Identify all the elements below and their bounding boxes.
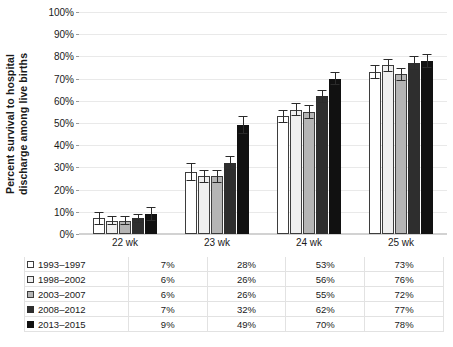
y-axis-tick-mark [76, 101, 79, 102]
bar[interactable] [106, 221, 118, 234]
error-bar-cap-top [423, 54, 432, 55]
table-value-cell: 55% [286, 287, 365, 302]
legend-entry[interactable]: 2008–2012 [25, 302, 129, 317]
table-value-cell: 62% [286, 302, 365, 317]
legend-swatch-icon [27, 291, 34, 298]
error-bar-cap-top [95, 212, 104, 213]
error-bar-cap-top [213, 170, 222, 171]
legend-swatch-icon [27, 261, 34, 268]
bar-group: 22 wk [93, 12, 157, 234]
y-axis-title: Percent survival to hospital discharge a… [0, 0, 34, 248]
y-axis-tick-mark [76, 12, 79, 13]
bar[interactable] [329, 79, 341, 234]
table-value-cell: 70% [286, 317, 365, 332]
x-axis-category-label: 24 wk [277, 237, 341, 248]
table-row: 2013–20159%49%70%78% [25, 317, 444, 332]
y-axis-tick-label: 80% [32, 51, 74, 62]
bar[interactable] [408, 63, 420, 234]
legend-entry[interactable]: 1993–1997 [25, 257, 129, 272]
bar-slot [316, 12, 328, 234]
table-value-cell: 6% [128, 272, 207, 287]
bar[interactable] [421, 61, 433, 234]
y-axis-tick-label: 20% [32, 184, 74, 195]
x-axis-category-label: 22 wk [93, 237, 157, 248]
table-value-cell: 73% [365, 257, 444, 272]
table-row: 2003–20076%26%55%72% [25, 287, 444, 302]
legend-swatch-icon [27, 321, 34, 328]
legend-entry[interactable]: 1998–2002 [25, 272, 129, 287]
y-axis-tick-mark [76, 212, 79, 213]
table-value-cell: 26% [207, 272, 286, 287]
bar[interactable] [185, 172, 197, 234]
error-bar-cap-top [108, 216, 117, 217]
y-axis-tick-label: 100% [32, 7, 74, 18]
y-axis-tick-label: 50% [32, 118, 74, 129]
table-value-cell: 72% [365, 287, 444, 302]
table-value-cell: 28% [207, 257, 286, 272]
bar-slot [329, 12, 341, 234]
gridline [79, 234, 447, 235]
error-bar-cap-top [371, 65, 380, 66]
error-bar-cap-top [226, 156, 235, 157]
table-value-cell: 78% [365, 317, 444, 332]
bar[interactable] [145, 214, 157, 234]
bar[interactable] [198, 176, 210, 234]
table-value-cell: 7% [128, 257, 207, 272]
y-axis-tick-label: 40% [32, 140, 74, 151]
error-bar-cap-top [134, 214, 143, 215]
bar[interactable] [211, 176, 223, 234]
y-axis-tick-mark [76, 145, 79, 146]
bar-slot [277, 12, 289, 234]
bar[interactable] [132, 218, 144, 234]
legend-entry[interactable]: 2013–2015 [25, 317, 129, 332]
error-bar-cap-top [397, 68, 406, 69]
bar[interactable] [277, 116, 289, 234]
bar[interactable] [316, 96, 328, 234]
legend-swatch-icon [27, 306, 34, 313]
bar-slot [382, 12, 394, 234]
y-axis-tick-label: 90% [32, 29, 74, 40]
y-axis-tick-label: 60% [32, 95, 74, 106]
table-row: 2008–20127%32%62%77% [25, 302, 444, 317]
bar-slot [211, 12, 223, 234]
bar-slot [93, 12, 105, 234]
bar-slot [119, 12, 131, 234]
legend-series-label: 1998–2002 [38, 274, 86, 285]
y-axis-tick-mark [76, 190, 79, 191]
bar-slot [395, 12, 407, 234]
bar[interactable] [93, 218, 105, 234]
bar[interactable] [119, 221, 131, 234]
error-bar-cap-top [147, 207, 156, 208]
bar[interactable] [303, 112, 315, 234]
table-value-cell: 76% [365, 272, 444, 287]
y-axis-tick-mark [76, 123, 79, 124]
bar[interactable] [237, 125, 249, 234]
bar[interactable] [224, 163, 236, 234]
bar-slot [106, 12, 118, 234]
bar-group: 24 wk [277, 12, 341, 234]
table-row: 1993–19977%28%53%73% [25, 257, 444, 272]
bar-slot [224, 12, 236, 234]
bar-slot [421, 12, 433, 234]
legend-series-label: 2013–2015 [38, 319, 86, 330]
bar-slot [369, 12, 381, 234]
error-bar-cap-top [384, 59, 393, 60]
x-axis-category-label: 25 wk [369, 237, 433, 248]
legend-series-label: 2003–2007 [38, 289, 86, 300]
error-bar-cap-top [292, 103, 301, 104]
y-axis-title-line-2: discharge among live births [17, 53, 30, 195]
y-axis-tick-label: 70% [32, 73, 74, 84]
error-bar-cap-top [239, 116, 248, 117]
bar-slot [132, 12, 144, 234]
table-value-cell: 7% [128, 302, 207, 317]
legend-entry[interactable]: 2003–2007 [25, 287, 129, 302]
bar[interactable] [395, 74, 407, 234]
legend-series-label: 2008–2012 [38, 304, 86, 315]
bar[interactable] [369, 72, 381, 234]
bar[interactable] [382, 65, 394, 234]
bar[interactable] [290, 110, 302, 234]
bar-slot [290, 12, 302, 234]
y-axis-tick-mark [76, 79, 79, 80]
y-axis-tick-label: 0% [32, 229, 74, 240]
x-axis-category-label: 23 wk [185, 237, 249, 248]
